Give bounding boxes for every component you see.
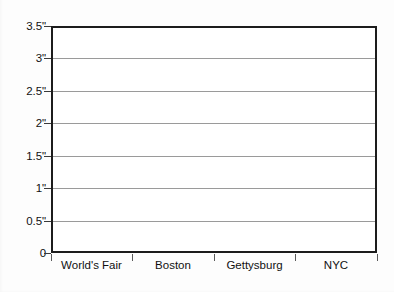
y-axis-tick-mark — [44, 123, 51, 124]
gridline — [53, 58, 375, 59]
gridline — [53, 123, 375, 124]
plot-area — [51, 26, 377, 253]
chart-container: 3.5" 3" 2.5" 2" 1.5" 1" 0.5" 0 World's F… — [0, 0, 394, 292]
y-axis-tick-mark — [44, 221, 51, 222]
y-axis-tick-mark — [44, 91, 51, 92]
x-axis-category-label-gettysburg: Gettysburg — [214, 259, 295, 273]
gridline — [53, 188, 375, 189]
y-axis-tick-mark — [44, 156, 51, 157]
y-axis-tick-mark — [44, 26, 51, 27]
gridline — [53, 156, 375, 157]
x-axis-tick-mark — [377, 254, 378, 261]
gridline — [53, 221, 375, 222]
x-axis-category-label-worlds-fair: World's Fair — [51, 259, 132, 273]
y-axis-tick-mark — [44, 253, 51, 254]
x-axis-category-label-nyc: NYC — [295, 259, 377, 273]
y-axis-tick-mark — [44, 188, 51, 189]
gridline — [53, 91, 375, 92]
y-axis-tick-mark — [44, 58, 51, 59]
x-axis-category-label-boston: Boston — [132, 259, 214, 273]
